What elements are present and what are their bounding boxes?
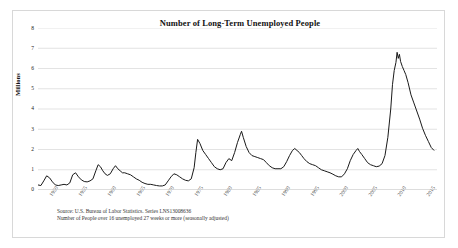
y-tick-8: 8 — [20, 25, 34, 31]
y-tick-5: 5 — [20, 85, 34, 91]
series-path-unemployed — [38, 52, 434, 186]
y-tick-2: 2 — [20, 146, 34, 152]
footnote-line-definition: Number of People over 16 unemployed 27 w… — [57, 215, 229, 222]
footnote-line-source: Source: U.S. Bureau of Labor Statistics.… — [57, 208, 229, 215]
y-tick-7: 7 — [20, 45, 34, 51]
chart-container: Number of Long-Term Unemployed People Mi… — [0, 0, 458, 248]
y-tick-6: 6 — [20, 65, 34, 71]
chart-footnote: Source: U.S. Bureau of Labor Statistics.… — [57, 208, 229, 222]
series-line-chart — [38, 28, 437, 190]
plot-area — [38, 28, 437, 190]
y-tick-1: 1 — [20, 166, 34, 172]
y-tick-4: 4 — [20, 105, 34, 111]
chart-title: Number of Long-Term Unemployed People — [120, 18, 360, 28]
y-tick-3: 3 — [20, 126, 34, 132]
y-tick-0: 0 — [20, 186, 34, 192]
